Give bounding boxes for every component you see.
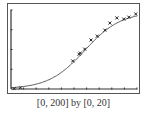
data-point-marker bbox=[79, 52, 82, 55]
data-point-marker bbox=[71, 59, 74, 62]
logistic-curve bbox=[11, 16, 137, 88]
window-caption: [0, 200] by [0, 20] bbox=[0, 97, 147, 108]
logistic-scatter-plot bbox=[0, 0, 147, 95]
data-point-marker bbox=[108, 22, 111, 25]
data-point-marker bbox=[90, 39, 93, 42]
data-point-marker bbox=[115, 16, 118, 19]
data-point-marker bbox=[134, 12, 137, 15]
